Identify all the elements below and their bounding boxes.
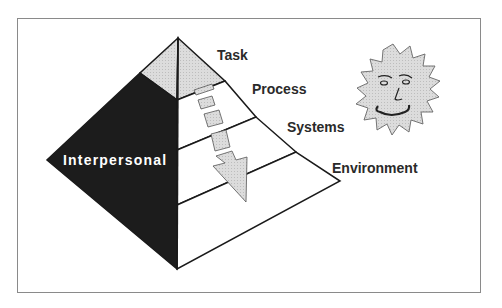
layer-label-environment: Environment	[332, 160, 418, 176]
side-label-interpersonal: Interpersonal	[63, 152, 167, 168]
sun-face-icon	[356, 44, 440, 135]
layer-label-systems: Systems	[287, 119, 345, 135]
layer-label-task: Task	[217, 47, 248, 63]
right-face	[177, 38, 340, 269]
front-edge	[177, 38, 178, 269]
layer-label-process: Process	[252, 81, 306, 97]
